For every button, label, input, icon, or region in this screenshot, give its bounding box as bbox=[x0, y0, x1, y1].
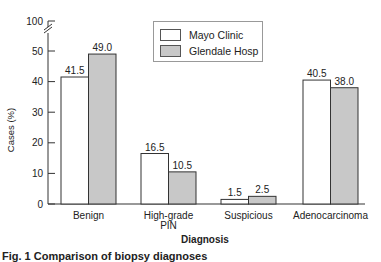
y-tick-label: 100 bbox=[26, 16, 43, 27]
axis-break-mark bbox=[44, 27, 52, 33]
y-axis-label: Cases (%) bbox=[5, 108, 16, 152]
bar-value-label: 2.5 bbox=[255, 184, 269, 195]
y-tick-label: 10 bbox=[32, 168, 44, 179]
figure-caption: Fig. 1 Comparison of biopsy diagnoses bbox=[2, 250, 207, 262]
bar-mayo bbox=[61, 77, 89, 204]
bar-glendale bbox=[249, 196, 277, 204]
bar-value-label: 10.5 bbox=[173, 160, 193, 171]
legend-label-mayo: Mayo Clinic bbox=[189, 29, 243, 41]
bar-glendale bbox=[331, 88, 359, 204]
bar-value-label: 38.0 bbox=[335, 76, 355, 87]
bar-glendale bbox=[89, 54, 117, 204]
x-tick-label: Adenocarcinoma bbox=[293, 210, 368, 221]
bar-mayo bbox=[303, 80, 331, 204]
bar-mayo bbox=[221, 199, 249, 204]
x-tick-label: PIN bbox=[160, 220, 177, 231]
chart-legend: Mayo Clinic Glendale Hosp bbox=[153, 21, 263, 62]
y-tick-label: 40 bbox=[32, 76, 44, 87]
bar-value-label: 16.5 bbox=[145, 142, 165, 153]
legend-item-glendale: Glendale Hosp bbox=[160, 44, 258, 58]
bar-mayo bbox=[141, 154, 169, 204]
bar-glendale bbox=[169, 172, 197, 204]
legend-swatch-glendale bbox=[160, 45, 181, 57]
legend-swatch-mayo bbox=[160, 29, 181, 41]
y-tick-label: 30 bbox=[32, 107, 44, 118]
bar-value-label: 1.5 bbox=[228, 187, 242, 198]
bar-value-label: 40.5 bbox=[307, 68, 327, 79]
legend-label-glendale: Glendale Hosp bbox=[189, 45, 258, 57]
bar-value-label: 41.5 bbox=[65, 65, 85, 76]
x-tick-label: Suspicious bbox=[224, 210, 272, 221]
legend-item-mayo: Mayo Clinic bbox=[160, 28, 243, 42]
y-tick-label: 0 bbox=[37, 199, 43, 210]
x-axis-label: Diagnosis bbox=[181, 234, 229, 245]
bar-value-label: 49.0 bbox=[93, 42, 113, 53]
y-tick-label: 50 bbox=[32, 46, 44, 57]
x-tick-label: Benign bbox=[73, 210, 104, 221]
y-tick-label: 20 bbox=[32, 137, 44, 148]
